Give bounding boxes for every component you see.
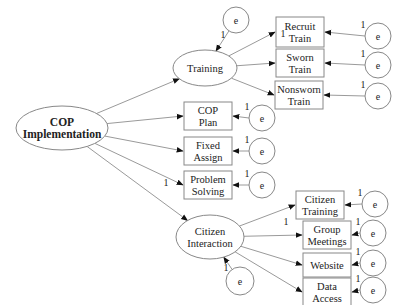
error-term-training: e — [223, 7, 249, 33]
error-term-recruit: e — [365, 23, 391, 49]
indicator-label: Meetings — [307, 236, 346, 247]
indicator-data: DataAccess — [303, 278, 351, 305]
path-weight-recruit: 1 — [281, 28, 286, 39]
path-cop-to-problem — [95, 143, 183, 185]
indicator-label: Train — [289, 64, 312, 75]
indicator-label: Nonsworn — [277, 84, 321, 95]
error-label: e — [376, 91, 381, 102]
error-weight-citizen: 1 — [224, 262, 229, 273]
indicator-label: Group — [314, 224, 341, 235]
error-label: e — [234, 15, 239, 26]
path-weight-problem: 1 — [164, 177, 169, 188]
error-weight-copplan: 1 — [245, 101, 250, 112]
indicator-label: Access — [312, 293, 342, 304]
path-weight-group: 1 — [284, 216, 289, 227]
error-label: e — [371, 258, 376, 269]
error-term-website: e — [360, 250, 386, 276]
error-term-problem: e — [249, 172, 275, 198]
indicator-nonsworn: NonswornTrain — [275, 81, 323, 109]
error-label: e — [371, 228, 376, 239]
path-cop-to-fixed — [105, 136, 183, 151]
indicator-label: Solving — [192, 186, 225, 197]
error-term-sworn: e — [365, 52, 391, 78]
error-path-website — [352, 263, 360, 265]
error-path-nonsworn — [324, 95, 365, 96]
indicator-problem: ProblemSolving — [184, 171, 232, 199]
error-weight-problem: 1 — [245, 168, 250, 179]
latent-label: Implementation — [23, 128, 102, 141]
error-weight-training: 1 — [221, 29, 226, 40]
error-path-sworn — [325, 63, 365, 65]
error-weight-data: 1 — [356, 273, 361, 284]
error-label: e — [376, 60, 381, 71]
indicator-label: Website — [310, 260, 344, 271]
error-weight-fixed: 1 — [245, 134, 250, 145]
latent-label: Interaction — [187, 238, 233, 249]
latent-citizen: CitizenInteraction — [176, 215, 244, 259]
error-term-group: e — [360, 220, 386, 246]
indicator-label: Plan — [199, 117, 218, 128]
error-label: e — [238, 276, 243, 287]
indicator-label: Problem — [190, 174, 226, 185]
error-weight-recruit: 1 — [361, 19, 366, 30]
latent-label: Training — [187, 63, 224, 74]
error-term-nonsworn: e — [365, 83, 391, 109]
path-cop-to-training — [97, 79, 180, 114]
error-term-citizen: e — [226, 267, 254, 295]
indicator-fixed: FixedAssign — [184, 137, 232, 165]
error-weight-nonsworn: 1 — [361, 79, 366, 90]
indicator-label: Recruit — [285, 21, 316, 32]
error-term-fixed: e — [249, 138, 275, 164]
latent-label: COP — [50, 116, 74, 128]
indicator-group: GroupMeetings — [303, 221, 351, 249]
error-path-data — [352, 290, 360, 292]
error-path-copplan — [233, 116, 249, 118]
error-term-copplan: e — [249, 105, 275, 131]
latent-label: Citizen — [195, 226, 226, 237]
indicator-label: Train — [288, 96, 311, 107]
error-weight-citizentraining: 1 — [358, 187, 363, 198]
error-weight-sworn: 1 — [361, 48, 366, 59]
error-label: e — [260, 146, 265, 157]
error-term-data: e — [360, 277, 386, 303]
error-path-recruit — [325, 32, 365, 36]
error-path-group — [352, 233, 360, 235]
indicator-sworn: SwornTrain — [276, 49, 324, 77]
path-citizen-to-group — [244, 235, 302, 236]
latent-training: Training — [173, 50, 237, 86]
indicator-label: Train — [289, 33, 312, 44]
error-term-citizentraining: e — [362, 191, 388, 217]
error-weight-group: 1 — [356, 216, 361, 227]
indicator-label: Sworn — [286, 52, 314, 63]
nodes-layer: COPImplementationTraininge1CitizenIntera… — [16, 7, 391, 305]
error-label: e — [260, 180, 265, 191]
indicator-citizentraining: CitizenTraining — [296, 191, 344, 219]
error-label: e — [373, 199, 378, 210]
path-cop-to-citizen — [87, 146, 188, 220]
error-label: e — [371, 285, 376, 296]
latent-ellipse — [176, 215, 244, 259]
error-weight-website: 1 — [356, 246, 361, 257]
sem-path-diagram: COPImplementationTraininge1CitizenIntera… — [0, 0, 398, 305]
path-cop-to-copplan — [107, 116, 183, 124]
path-training-to-recruit — [229, 32, 275, 56]
indicator-label: Data — [317, 281, 337, 292]
indicator-label: COP — [198, 105, 219, 116]
path-training-to-nonsworn — [231, 78, 274, 95]
indicator-label: Fixed — [196, 140, 221, 151]
error-label: e — [260, 113, 265, 124]
error-label: e — [376, 31, 381, 42]
path-citizen-to-website — [241, 246, 302, 265]
indicator-copplan: COPPlan — [184, 102, 232, 130]
indicator-label: Training — [302, 206, 339, 217]
indicator-website: Website — [303, 253, 351, 277]
latent-cop-implementation: COPImplementation — [16, 106, 108, 150]
indicator-label: Citizen — [305, 194, 336, 205]
error-path-citizentraining — [345, 204, 362, 205]
indicator-label: Assign — [193, 152, 223, 163]
path-training-to-sworn — [237, 63, 275, 66]
